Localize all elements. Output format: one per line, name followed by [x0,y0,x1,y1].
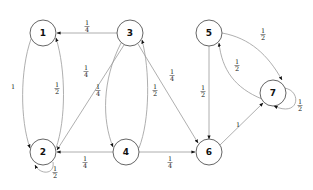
node-3: 3 [117,20,143,46]
svg-text:1: 1 [11,83,15,91]
edge-label-4-to-2: 1 4 [83,155,88,170]
node-2: 2 [30,139,56,165]
svg-text:3: 3 [127,28,133,38]
edge-label-5-to-6: 1 2 [201,84,206,99]
svg-text:2: 2 [55,88,59,96]
node-4: 4 [113,139,139,165]
nodes: 1 2 3 4 5 6 7 [30,20,286,165]
svg-text:2: 2 [153,90,157,98]
svg-text:5: 5 [206,28,212,38]
svg-text:1: 1 [40,28,46,38]
edge-label-6-to-7: 1 [236,121,240,129]
svg-text:4: 4 [96,90,100,98]
edge-label-3-to-2: 1 4 [84,64,89,79]
markov-chain-diagram: 1 4 1 1 2 1 4 1 4 1 2 [0,0,313,190]
svg-text:2: 2 [261,34,265,42]
svg-text:4: 4 [123,147,129,157]
edge-3-to-2 [57,45,124,150]
edge-5-to-7 [222,33,282,80]
svg-text:2: 2 [40,147,46,157]
edge-label-2-to-1: 1 2 [55,81,60,96]
svg-text:4: 4 [170,75,174,83]
edge-label-1-to-2: 1 [11,83,15,91]
edge-label-3-to-6: 1 4 [170,68,175,83]
svg-text:7: 7 [270,88,276,98]
edge-label-3-to-1: 1 4 [85,19,90,34]
svg-text:6: 6 [206,147,212,157]
edges [23,33,296,172]
node-5: 5 [196,20,222,46]
edge-label-7-to-7: 1 2 [298,98,303,113]
node-1: 1 [30,20,56,46]
svg-text:2: 2 [201,91,205,99]
edge-1-to-2 [23,39,31,148]
edge-label-3-to-4: 1 4 [96,83,101,98]
node-7: 7 [260,80,286,106]
edge-3-to-6 [138,44,198,143]
svg-text:4: 4 [83,162,87,170]
edge-6-to-7 [220,103,263,145]
edge-label-2-to-2: 1 2 [53,165,58,180]
svg-text:2: 2 [298,105,302,113]
svg-text:4: 4 [84,71,88,79]
edge-label-5-to-7: 1 2 [261,27,266,42]
edge-7-to-5 [219,43,262,99]
edge-3-to-4 [106,43,121,147]
edge-4-to-3 [139,40,148,148]
node-6: 6 [196,139,222,165]
svg-text:1: 1 [236,121,240,129]
svg-text:2: 2 [235,65,239,73]
edge-label-4-to-6: 1 4 [168,155,173,170]
svg-text:4: 4 [168,162,172,170]
svg-text:4: 4 [85,26,89,34]
edge-label-4-to-3: 1 2 [153,83,158,98]
svg-text:2: 2 [53,172,57,180]
edge-label-7-to-5: 1 2 [235,58,240,73]
